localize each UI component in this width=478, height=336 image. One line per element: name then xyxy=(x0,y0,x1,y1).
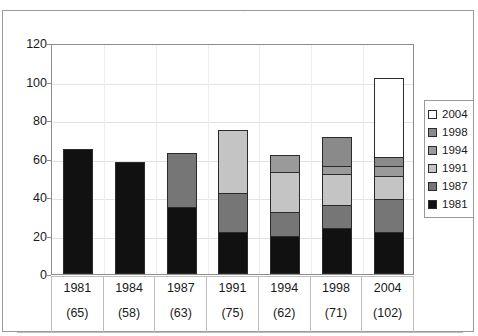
legend-label: 1998 xyxy=(442,126,468,138)
legend-label: 1994 xyxy=(442,144,468,156)
y-tick-label: 0 xyxy=(7,269,47,281)
bar-segment[interactable] xyxy=(322,228,352,274)
legend-item[interactable]: 1981 xyxy=(428,195,470,213)
legend-item[interactable]: 1991 xyxy=(428,159,470,177)
bar-segment[interactable] xyxy=(374,78,404,157)
x-axis-cell: 1984(58) xyxy=(103,276,155,332)
y-tick-label: 60 xyxy=(7,154,47,166)
y-tick-label: 120 xyxy=(7,38,47,50)
bar-segment[interactable] xyxy=(374,166,404,176)
bar-segment[interactable] xyxy=(270,155,300,172)
x-tick-label: 1981 xyxy=(63,280,91,296)
bar-stack[interactable] xyxy=(374,78,404,274)
bar-segment[interactable] xyxy=(218,130,248,194)
bar-column[interactable] xyxy=(104,45,156,274)
legend-item[interactable]: 1994 xyxy=(428,141,470,159)
bar-stack[interactable] xyxy=(63,149,93,274)
legend-item[interactable]: 2004 xyxy=(428,105,470,123)
legend-swatch-icon xyxy=(428,200,437,209)
x-tick-sublabel: (75) xyxy=(221,305,243,321)
legend-label: 1991 xyxy=(442,162,468,174)
y-tick-label: 40 xyxy=(7,192,47,204)
chart-title-remnant: · xyxy=(239,9,249,17)
bar-segment[interactable] xyxy=(115,162,145,274)
bar-segment[interactable] xyxy=(322,166,352,174)
legend-label: 1987 xyxy=(442,180,468,192)
bar-stack[interactable] xyxy=(218,130,248,274)
x-tick-label: 1984 xyxy=(115,280,143,296)
bar-stack[interactable] xyxy=(115,162,145,274)
x-tick-label: 2004 xyxy=(374,280,402,296)
legend-label: 1981 xyxy=(442,198,468,210)
bar-segment[interactable] xyxy=(374,157,404,167)
y-axis: 020406080100120 xyxy=(3,44,47,275)
bar-segment[interactable] xyxy=(374,232,404,274)
x-axis-cell: 1998(71) xyxy=(310,276,362,332)
bar-segment[interactable] xyxy=(270,236,300,275)
bar-column[interactable] xyxy=(156,45,208,274)
bar-column[interactable] xyxy=(311,45,363,274)
legend-item[interactable]: 1987 xyxy=(428,177,470,195)
x-tick-sublabel: (102) xyxy=(373,305,402,321)
chart-legend: 200419981994199119871981 xyxy=(424,100,474,218)
x-tick-sublabel: (62) xyxy=(273,305,295,321)
x-tick-label: 1991 xyxy=(219,280,247,296)
x-axis-bottom-line xyxy=(17,332,463,333)
bar-segment[interactable] xyxy=(218,232,248,274)
bar-column[interactable] xyxy=(208,45,260,274)
x-axis-cell: 1987(63) xyxy=(154,276,206,332)
x-axis-cell: 1991(75) xyxy=(206,276,258,332)
bar-segment[interactable] xyxy=(374,199,404,232)
x-tick-sublabel: (65) xyxy=(66,305,88,321)
bar-stack[interactable] xyxy=(167,153,197,274)
bar-segment[interactable] xyxy=(270,172,300,212)
legend-swatch-icon xyxy=(428,110,437,119)
bar-stack[interactable] xyxy=(270,155,300,274)
bar-column[interactable] xyxy=(52,45,104,274)
y-tick-label: 100 xyxy=(7,77,47,89)
bar-segment[interactable] xyxy=(322,205,352,228)
x-tick-sublabel: (58) xyxy=(118,305,140,321)
bar-segment[interactable] xyxy=(322,174,352,205)
x-tick-label: 1998 xyxy=(322,280,350,296)
chart-root: · 020406080100120 1981(65)1984(58)1987(6… xyxy=(0,0,478,336)
bar-segment[interactable] xyxy=(322,137,352,166)
legend-swatch-icon xyxy=(428,182,437,191)
x-tick-sublabel: (71) xyxy=(325,305,347,321)
bar-stack[interactable] xyxy=(322,137,352,274)
legend-label: 2004 xyxy=(442,108,468,120)
bar-segment[interactable] xyxy=(167,153,197,207)
bar-column[interactable] xyxy=(363,45,415,274)
bar-column[interactable] xyxy=(259,45,311,274)
x-axis-cell: 1994(62) xyxy=(258,276,310,332)
bars-layer xyxy=(52,45,413,274)
y-tick-label: 80 xyxy=(7,115,47,127)
chart-frame: · 020406080100120 1981(65)1984(58)1987(6… xyxy=(2,10,474,332)
bar-segment[interactable] xyxy=(167,207,197,274)
legend-swatch-icon xyxy=(428,128,437,137)
x-axis-cell: 2004(102) xyxy=(361,276,414,332)
legend-swatch-icon xyxy=(428,164,437,173)
x-tick-sublabel: (63) xyxy=(170,305,192,321)
legend-swatch-icon xyxy=(428,146,437,155)
bar-segment[interactable] xyxy=(218,193,248,232)
legend-item[interactable]: 1998 xyxy=(428,123,470,141)
x-axis-cell: 1981(65) xyxy=(51,276,103,332)
bar-segment[interactable] xyxy=(270,212,300,235)
x-tick-label: 1994 xyxy=(270,280,298,296)
bar-segment[interactable] xyxy=(374,176,404,199)
y-tick-label: 20 xyxy=(7,231,47,243)
bar-segment[interactable] xyxy=(63,149,93,274)
plot-area xyxy=(51,44,414,275)
x-tick-label: 1987 xyxy=(167,280,195,296)
x-axis-labels: 1981(65)1984(58)1987(63)1991(75)1994(62)… xyxy=(51,276,414,332)
